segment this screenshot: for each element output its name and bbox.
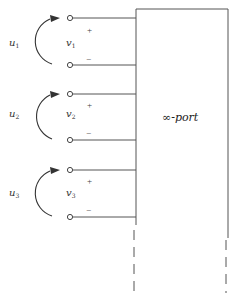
port-2-arc-arrow-icon	[37, 95, 52, 139]
port-1-top-terminal-icon	[67, 15, 72, 20]
port-3-arc-arrow-icon	[35, 171, 52, 216]
port-3: u3 v3 + −	[9, 167, 136, 220]
port-1-input-label: u1	[9, 37, 19, 49]
port-3-voltage-label: v3	[66, 187, 76, 199]
port-3-minus-sign: −	[86, 205, 91, 215]
port-3-plus-sign: +	[87, 176, 92, 186]
port-2-minus-sign: −	[86, 128, 91, 138]
port-2-input-label: u2	[9, 108, 19, 120]
dashed-continuation	[134, 230, 226, 293]
port-3-bottom-terminal-icon	[67, 214, 72, 219]
port-2-voltage-label: v2	[66, 108, 76, 120]
port-1-arrowhead-icon	[50, 15, 60, 22]
port-2-plus-sign: +	[87, 100, 92, 110]
port-1: u1 v1 + −	[9, 15, 136, 68]
box-label: ∞-port	[162, 111, 199, 124]
port-2-top-terminal-icon	[67, 91, 72, 96]
port-1-minus-sign: −	[86, 54, 91, 64]
port-2-arrowhead-icon	[50, 91, 60, 98]
port-1-arc-arrow-icon	[35, 19, 52, 64]
infinity-port-diagram: ∞-port u1 v1 + − u2 v2 + − u3 v3 +	[0, 0, 251, 305]
port-3-arrowhead-icon	[50, 167, 60, 174]
port-3-top-terminal-icon	[67, 167, 72, 172]
port-3-input-label: u3	[9, 187, 19, 199]
port-1-voltage-label: v1	[66, 37, 75, 49]
port-2-bottom-terminal-icon	[67, 137, 72, 142]
port-2: u2 v2 + −	[9, 91, 136, 143]
port-1-plus-sign: +	[87, 25, 92, 35]
port-1-bottom-terminal-icon	[67, 62, 72, 67]
